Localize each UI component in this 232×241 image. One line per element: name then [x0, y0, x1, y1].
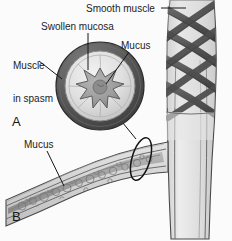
label-mucus-cross-section: Mucus	[121, 40, 150, 51]
label-mucus-branch: Mucus	[24, 139, 53, 150]
label-smooth-muscle: Smooth muscle	[86, 3, 155, 14]
mucus-plug-core	[93, 80, 107, 94]
label-muscle-in-spasm-line2: in spasm	[13, 93, 53, 104]
branch-wall	[6, 142, 168, 226]
asthma-airway-figure: Smooth muscle Swollen mucosa Muscle in s…	[0, 0, 232, 241]
panel-label-b: B	[12, 209, 21, 224]
bronchiole-branch-group	[6, 142, 168, 226]
label-muscle-in-spasm: Muscle in spasm	[13, 38, 53, 126]
label-muscle-in-spasm-line1: Muscle	[13, 60, 53, 71]
panel-label-a: A	[12, 114, 21, 129]
label-swollen-mucosa: Swollen mucosa	[41, 21, 114, 32]
smooth-muscle-bands-group	[158, 0, 230, 140]
cross-section-inset-group	[56, 42, 144, 130]
